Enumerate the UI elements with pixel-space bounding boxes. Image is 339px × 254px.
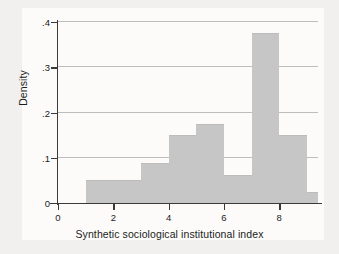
y-axis-line <box>57 20 58 205</box>
x-axis-tick-label: 0 <box>46 212 70 223</box>
x-axis-tick-mark <box>224 204 225 210</box>
x-axis-label: Synthetic sociological institutional ind… <box>0 228 339 240</box>
histogram-bar <box>113 180 141 203</box>
y-axis-tick-mark <box>51 67 57 68</box>
x-axis-tick-mark <box>113 204 114 210</box>
histogram-bar <box>224 175 252 203</box>
histogram-bar <box>307 192 318 203</box>
x-axis-tick-label: 8 <box>267 212 291 223</box>
histogram-bar <box>196 124 224 203</box>
y-axis-tick-mark <box>51 113 57 114</box>
histogram-bar <box>252 33 280 203</box>
y-axis-tick-label: .2 <box>24 107 50 118</box>
y-axis-tick-label: .4 <box>24 17 50 28</box>
y-axis-tick-label: .1 <box>24 152 50 163</box>
x-axis-tick-label: 4 <box>157 212 181 223</box>
x-axis-line <box>50 203 322 204</box>
histogram-bar <box>279 135 307 203</box>
histogram-bar <box>86 180 114 203</box>
x-axis-tick-mark <box>58 204 59 210</box>
y-axis-tick-mark <box>51 158 57 159</box>
y-axis-tick-mark <box>51 22 57 23</box>
y-axis-tick-label: .3 <box>24 62 50 73</box>
x-axis-tick-mark <box>279 204 280 210</box>
histogram-bar <box>141 163 169 203</box>
y-axis-tick-mark <box>51 203 57 204</box>
histogram-bar <box>169 135 197 203</box>
histogram-figure: Density 0.1.2.3.4 02468 Synthetic sociol… <box>0 0 339 254</box>
x-axis-tick-label: 2 <box>101 212 125 223</box>
plot-area <box>58 22 318 203</box>
x-axis-tick-label: 6 <box>212 212 236 223</box>
gridline <box>58 21 318 22</box>
y-axis-tick-label: 0 <box>24 198 50 209</box>
x-axis-tick-mark <box>169 204 170 210</box>
